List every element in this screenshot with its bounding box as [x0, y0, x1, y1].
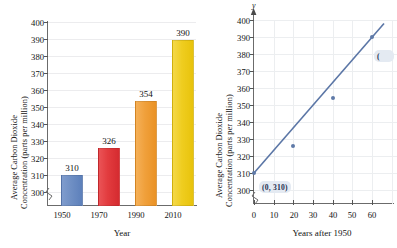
- bar-chart-ytick-320: 320: [22, 155, 44, 164]
- bar-value-1990: 354: [130, 89, 162, 99]
- bar-chart-ytick-330: 330: [22, 138, 44, 147]
- scatter-xtick-10: 10: [263, 211, 285, 220]
- bar-chart-xtick-2010: 2010: [157, 211, 189, 220]
- bar-1950[interactable]: [61, 175, 83, 206]
- scatter-chart-ytick-350: 350: [228, 102, 250, 111]
- bar-value-1950: 310: [56, 163, 88, 173]
- scatter-xtickmark: [313, 200, 314, 205]
- bar-chart-xtick-1950: 1950: [46, 211, 78, 220]
- trend-line: [254, 20, 397, 204]
- bar-chart-ytick-400: 400: [22, 19, 44, 28]
- bar-chart-ytick-310: 310: [22, 172, 44, 181]
- scatter-xtickmark: [293, 200, 294, 205]
- scatter-xtickmark: [333, 200, 334, 205]
- scatter-xtickmark: [274, 200, 275, 205]
- scatter-chart-ytick-300: 300: [228, 187, 250, 196]
- scatter-chart-ytick-370: 370: [228, 68, 250, 77]
- scatter-chart-ytick-320: 320: [228, 153, 250, 162]
- bar-value-1970: 326: [93, 136, 125, 146]
- data-point-60-390[interactable]: [370, 35, 374, 39]
- scatter-xtick-30: 30: [302, 211, 324, 220]
- scatter-chart-ytick-330: 330: [228, 136, 250, 145]
- scatter-chart-ytick-310: 310: [228, 170, 250, 179]
- y-axis-arrow-icon: [249, 8, 259, 18]
- scatter-xtickmark: [372, 200, 373, 205]
- data-point-40-354[interactable]: [331, 96, 335, 100]
- scatter-xtickmark: [254, 200, 255, 205]
- scatter-chart-ytick-380: 380: [228, 51, 250, 60]
- scatter-chart-ytick-360: 360: [228, 85, 250, 94]
- bar-chart-ytick-300: 300: [22, 189, 44, 198]
- bar-chart-ytick-360: 360: [22, 87, 44, 96]
- bar-chart-ytick-390: 390: [22, 36, 44, 45]
- bar-chart-xtick-1990: 1990: [120, 211, 152, 220]
- bar-chart-panel: Average Carbon Dioxide Concentration (pa…: [0, 0, 200, 248]
- annotation-clipped: (: [374, 50, 394, 62]
- bar-chart-ytick-350: 350: [22, 104, 44, 113]
- scatter-xtick-50: 50: [341, 211, 363, 220]
- bar-1970[interactable]: [98, 148, 120, 206]
- bar-2010[interactable]: [172, 40, 194, 206]
- bar-chart-ytick-340: 340: [22, 121, 44, 130]
- scatter-xtick-60: 60: [361, 211, 383, 220]
- bar-chart-y-axis-label-line1: Average Carbon Dioxide: [10, 115, 19, 200]
- bar-chart-x-axis-title: Year: [47, 228, 197, 238]
- scatter-xtick-0: 0: [243, 211, 265, 220]
- bar-value-2010: 390: [167, 28, 199, 38]
- scatter-chart-ytick-340: 340: [228, 119, 250, 128]
- scatter-chart-x-axis-title: Years after 1950: [247, 228, 397, 238]
- bar-1990[interactable]: [135, 101, 157, 206]
- bar-chart-xtick-1970: 1970: [83, 211, 115, 220]
- scatter-chart-y-axis-label-line1: Average Carbon Dioxide: [215, 113, 224, 198]
- annotation-point-0-310: (0, 310): [259, 181, 291, 193]
- textbook-figure: Average Carbon Dioxide Concentration (pa…: [0, 0, 397, 248]
- data-point-0-310[interactable]: [252, 171, 256, 175]
- scatter-chart-plot-area: [254, 20, 397, 204]
- scatter-chart-ytick-400: 400: [228, 17, 250, 26]
- bar-chart-ytick-380: 380: [22, 53, 44, 62]
- data-point-20-326[interactable]: [291, 144, 295, 148]
- scatter-xtickmark: [352, 200, 353, 205]
- scatter-chart-ytick-390: 390: [228, 34, 250, 43]
- bar-chart-plot-area: 310 326 354 390: [48, 22, 196, 206]
- scatter-chart-panel: Average Carbon Dioxide Concentration (pa…: [197, 0, 397, 248]
- bar-chart-ytick-370: 370: [22, 70, 44, 79]
- bar-chart-gridline: [48, 22, 196, 23]
